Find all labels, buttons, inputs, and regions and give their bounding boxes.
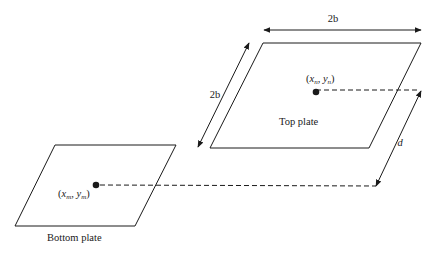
- top-point-marker: [313, 89, 320, 96]
- top-plate-label: Top plate: [279, 116, 319, 127]
- depth-label: 2b: [210, 89, 221, 100]
- width-label: 2b: [328, 13, 339, 24]
- depth-dimension-arrow: [198, 43, 249, 147]
- bottom-projection-dashed-line: [100, 185, 376, 186]
- bottom-plate-label: Bottom plate: [47, 232, 102, 243]
- parallel-plates-diagram: 2b 2b d Top plate Bottom plate (xn, yn) …: [0, 0, 437, 255]
- bottom-point-marker: [93, 182, 100, 189]
- separation-label: d: [397, 137, 403, 148]
- bottom-point-coordinate-label: (xm, ym): [58, 188, 90, 201]
- top-point-coordinate-label: (xn, yn): [306, 73, 335, 86]
